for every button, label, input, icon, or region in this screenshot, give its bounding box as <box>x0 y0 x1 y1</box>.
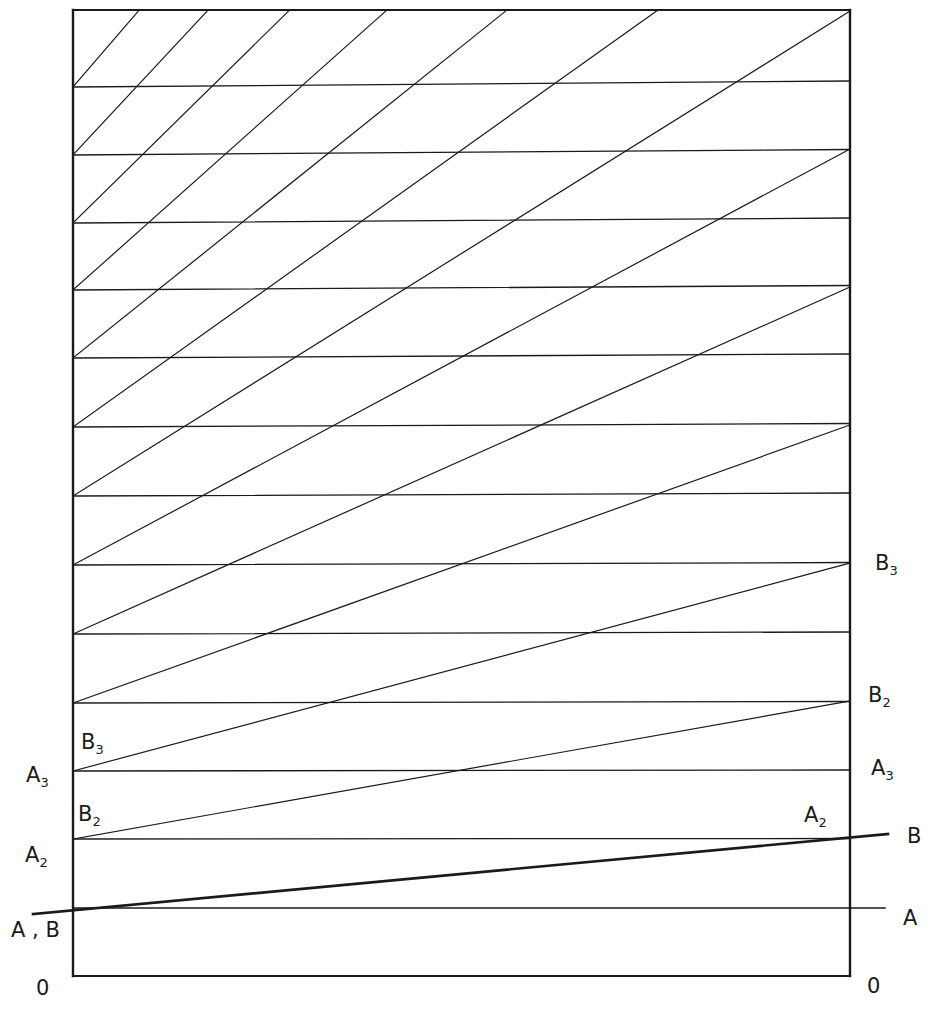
diagonal-line <box>73 10 139 87</box>
rung-line <box>73 424 850 428</box>
rung-line <box>73 632 850 634</box>
rung-line <box>73 493 850 496</box>
label-left-zero: 0 <box>36 978 49 999</box>
label-right-B3: B3 <box>875 553 898 574</box>
rung-line <box>73 702 850 704</box>
line-B <box>33 834 888 914</box>
diagonal-line <box>73 10 658 427</box>
diagonal-line <box>73 10 507 358</box>
label-right-B: B <box>907 826 921 847</box>
lines-A-B <box>33 834 888 914</box>
label-right-A2: A2 <box>804 805 827 826</box>
rung-line <box>73 286 850 291</box>
label-left-A3: A3 <box>26 765 49 786</box>
rung-line <box>73 839 850 840</box>
diagonal-line <box>73 563 850 771</box>
label-left-A2: A2 <box>25 845 48 866</box>
diagonal-line <box>73 10 208 155</box>
rung-line <box>73 218 850 223</box>
label-right-A: A <box>903 908 917 929</box>
label-right-zero: 0 <box>867 976 880 997</box>
construction-diagram <box>0 0 940 1010</box>
label-left-B3: B3 <box>81 732 104 753</box>
diagonal-line <box>73 10 290 223</box>
label-right-B2: B2 <box>868 685 891 706</box>
diagonal-line <box>73 287 850 634</box>
label-left-AB: A , B <box>11 920 60 941</box>
label-right-A3: A3 <box>871 758 894 779</box>
label-left-B2: B2 <box>78 804 101 825</box>
diagonal-line <box>73 10 387 290</box>
